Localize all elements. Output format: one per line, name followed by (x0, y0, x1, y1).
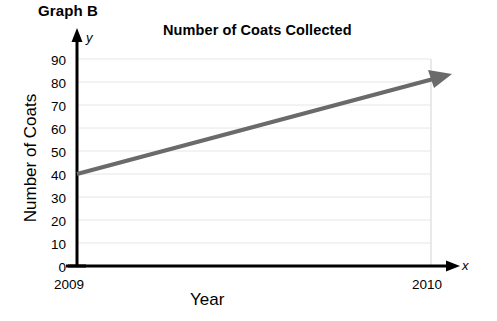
y-axis-arrowhead-icon (72, 28, 83, 42)
data-series-coats-collected (77, 70, 452, 174)
gridlines (77, 59, 431, 266)
trend-line (77, 78, 437, 174)
plot-area (0, 0, 497, 321)
chart-container: Graph B Number of Coats Collected Number… (0, 0, 497, 321)
axes (66, 28, 460, 272)
x-axis-arrowhead-icon (446, 261, 460, 272)
